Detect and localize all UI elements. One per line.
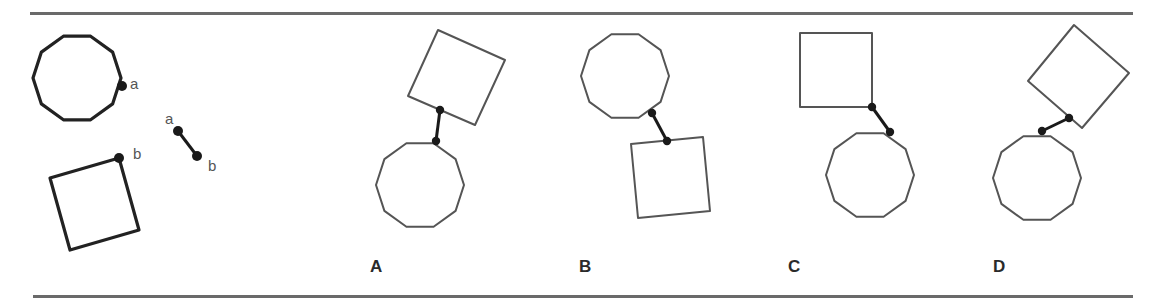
legend-connector-b-label: b: [208, 158, 216, 173]
legend-panel: [33, 36, 202, 250]
legend-point-b-dot: [114, 153, 124, 163]
answer-options: [376, 25, 1129, 227]
option-a-polygon-joint-dot: [432, 137, 440, 145]
option-d-figure: [993, 25, 1129, 220]
option-b-figure: [581, 34, 710, 218]
option-c-figure: [800, 33, 914, 217]
option-c-decagon-shape: [826, 133, 914, 217]
option-d-polygon-joint-dot: [1038, 127, 1046, 135]
legend-connector-end-b-dot: [192, 151, 202, 161]
option-label-d: D: [993, 258, 1005, 275]
option-d-square-joint-dot: [1065, 114, 1073, 122]
option-label-c: C: [788, 258, 800, 275]
option-a-square-shape: [408, 30, 505, 125]
option-c-square-joint-dot: [868, 103, 876, 111]
legend-decagon-shape: [33, 36, 121, 120]
option-b-connector-link: [652, 113, 667, 141]
option-c-polygon-joint-dot: [886, 128, 894, 136]
puzzle-figure: a b a b A B C D: [0, 0, 1157, 307]
option-b-polygon-joint-dot: [648, 109, 656, 117]
option-c-square-shape: [800, 33, 872, 107]
legend-polygon-point-label: a: [130, 76, 138, 91]
option-a-figure: [376, 30, 505, 227]
option-d-connector-link: [1042, 118, 1069, 131]
option-a-connector-link: [436, 110, 440, 141]
option-a-square-joint-dot: [436, 106, 444, 114]
option-label-b: B: [579, 258, 591, 275]
option-b-square-joint-dot: [663, 137, 671, 145]
option-a-decagon-shape: [376, 143, 464, 227]
legend-point-a-dot: [117, 81, 127, 91]
option-b-square-shape: [631, 137, 710, 218]
option-d-square-shape: [1028, 25, 1129, 128]
option-c-connector-link: [872, 107, 890, 132]
option-d-decagon-shape: [993, 136, 1081, 220]
legend-connector-end-a-dot: [173, 126, 183, 136]
legend-square-shape: [50, 158, 139, 250]
legend-connector-a-label: a: [165, 111, 173, 126]
option-label-a: A: [370, 258, 382, 275]
option-b-decagon-shape: [581, 34, 669, 118]
legend-square-point-label: b: [133, 146, 141, 161]
